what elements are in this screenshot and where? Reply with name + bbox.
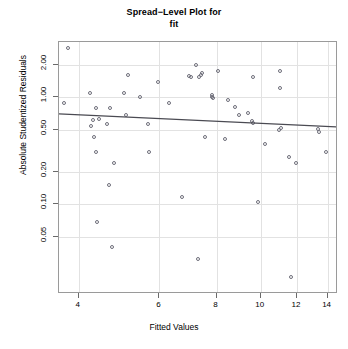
fit-line xyxy=(59,42,337,293)
data-point xyxy=(263,142,267,146)
data-point xyxy=(126,73,130,77)
x-axis-tick-label: 6 xyxy=(156,300,160,309)
data-point xyxy=(66,46,70,50)
data-point xyxy=(317,130,321,134)
data-point xyxy=(138,95,142,99)
x-axis-tick-label: 4 xyxy=(76,300,80,309)
data-point xyxy=(287,155,291,159)
y-axis-tick-label: 0.05 xyxy=(36,230,52,239)
data-point xyxy=(167,101,171,105)
gridline-horizontal xyxy=(59,204,336,205)
chart-title-line1: Spread−Level Plot for xyxy=(0,6,348,18)
data-point xyxy=(147,150,151,154)
y-axis-tick xyxy=(53,96,58,97)
data-point xyxy=(189,75,193,79)
x-axis-tick xyxy=(327,293,328,298)
data-point xyxy=(194,63,198,67)
data-point xyxy=(105,122,109,126)
data-point xyxy=(196,257,200,261)
y-axis-tick xyxy=(53,236,58,237)
data-point xyxy=(94,106,98,110)
gridline-horizontal xyxy=(59,172,336,173)
gridline-vertical xyxy=(159,42,160,292)
gridline-horizontal xyxy=(59,237,336,238)
x-axis-tick-label: 8 xyxy=(213,300,217,309)
y-axis-tick-label: 0.50 xyxy=(36,123,52,132)
y-axis-tick-label: 2.00 xyxy=(36,58,52,67)
data-point xyxy=(233,105,237,109)
y-axis-tick xyxy=(53,64,58,65)
y-axis-tick-label: 1.00 xyxy=(36,90,52,99)
data-point xyxy=(91,118,95,122)
gridline-vertical xyxy=(328,42,329,292)
gridline-horizontal xyxy=(59,130,336,131)
data-point xyxy=(122,91,126,95)
data-point xyxy=(200,71,204,75)
x-axis-tick-label: 12 xyxy=(292,300,301,309)
y-axis-tick-label: 0.20 xyxy=(36,165,52,174)
data-point xyxy=(156,80,160,84)
data-point xyxy=(95,220,99,224)
data-point xyxy=(110,245,114,249)
regression-line xyxy=(59,114,337,127)
data-point xyxy=(246,111,250,115)
y-axis-tick xyxy=(53,203,58,204)
data-point xyxy=(88,91,92,95)
gridline-vertical xyxy=(79,42,80,292)
gridline-vertical xyxy=(217,42,218,292)
data-point xyxy=(251,121,255,125)
spread-level-plot: Spread−Level Plot for fit 4681012142.001… xyxy=(0,0,348,349)
gridline-horizontal xyxy=(59,97,336,98)
y-axis-tick-label: 0.10 xyxy=(36,197,52,206)
data-point xyxy=(324,150,328,154)
x-axis-tick xyxy=(216,293,217,298)
data-point xyxy=(279,126,283,130)
data-point xyxy=(294,161,298,165)
x-axis-tick xyxy=(260,293,261,298)
data-point xyxy=(256,200,260,204)
data-point xyxy=(180,195,184,199)
data-point xyxy=(278,69,282,73)
data-point xyxy=(146,122,150,126)
x-axis-tick xyxy=(158,293,159,298)
x-axis-title: Fitted Values xyxy=(0,322,348,332)
data-point xyxy=(108,106,112,110)
y-axis-tick xyxy=(53,171,58,172)
x-axis-tick-label: 10 xyxy=(255,300,264,309)
x-axis-tick xyxy=(78,293,79,298)
data-point xyxy=(278,86,282,90)
data-point xyxy=(226,98,230,102)
data-point xyxy=(237,113,241,117)
data-point xyxy=(92,135,96,139)
data-point xyxy=(211,96,215,100)
data-point xyxy=(124,113,128,117)
chart-title: Spread−Level Plot for fit xyxy=(0,6,348,30)
gridline-vertical xyxy=(297,42,298,292)
data-point xyxy=(223,137,227,141)
data-point xyxy=(203,135,207,139)
plot-area xyxy=(58,41,337,293)
data-point xyxy=(97,117,101,121)
data-point xyxy=(251,75,255,79)
data-point xyxy=(289,275,293,279)
data-point xyxy=(107,183,111,187)
x-axis-tick-label: 14 xyxy=(322,300,331,309)
gridline-vertical xyxy=(261,42,262,292)
data-point xyxy=(216,69,220,73)
y-axis-tick xyxy=(53,129,58,130)
data-point xyxy=(62,101,66,105)
data-point xyxy=(112,161,116,165)
data-point xyxy=(94,150,98,154)
x-axis-tick xyxy=(296,293,297,298)
y-axis-title: Absolute Studentized Residuals xyxy=(18,45,28,185)
data-point xyxy=(89,124,93,128)
chart-title-line2: fit xyxy=(0,18,348,30)
